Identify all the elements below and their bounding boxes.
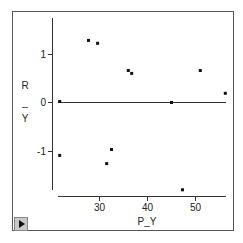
data-point: [58, 154, 61, 157]
y-axis-title-r: R: [21, 80, 28, 91]
data-point: [96, 42, 99, 45]
scatter-plot: 1 0 -1 R _ Y 30 40 50 P_Y: [0, 0, 243, 243]
play-triangle-icon: [19, 220, 25, 228]
data-point: [130, 72, 133, 75]
data-point: [199, 69, 202, 72]
data-point: [87, 39, 90, 42]
data-point: [127, 69, 130, 72]
y-axis-title-underscore: _: [21, 97, 28, 108]
data-point: [105, 162, 108, 165]
plot-frame: [13, 12, 234, 231]
x-axis-title: P_Y: [138, 216, 157, 227]
y-tick-label-neg1: -1: [37, 146, 46, 157]
play-button[interactable]: Play: [14, 217, 28, 231]
x-tick-label-30: 30: [94, 202, 106, 213]
data-point: [224, 92, 227, 95]
y-axis-title-y: Y: [22, 113, 29, 124]
y-tick-label-1: 1: [40, 49, 46, 60]
data-point: [170, 101, 173, 104]
data-point: [181, 188, 184, 191]
x-tick-label-40: 40: [142, 202, 154, 213]
y-tick-label-0: 0: [40, 97, 46, 108]
data-point: [110, 148, 113, 151]
x-tick-label-50: 50: [190, 202, 202, 213]
data-points: [58, 39, 227, 191]
data-point: [58, 100, 61, 103]
